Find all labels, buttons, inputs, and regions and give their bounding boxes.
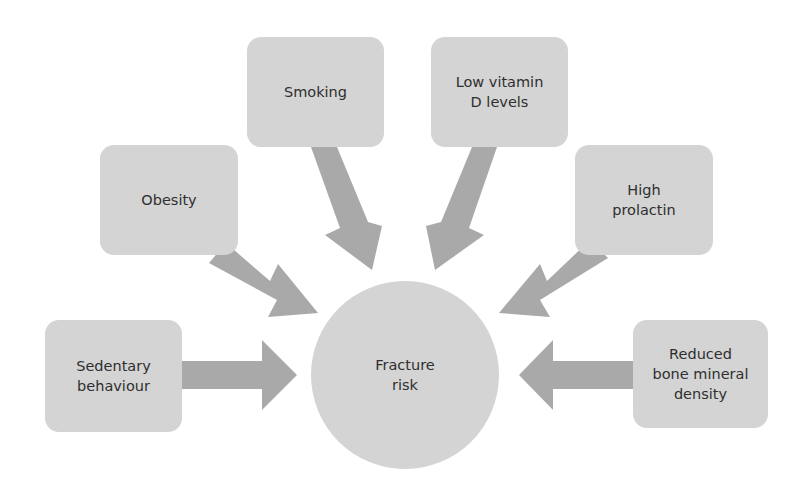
factor-label: Smoking xyxy=(284,82,347,102)
arrow-bmd xyxy=(519,340,633,410)
factor-label: Reduced bone mineral density xyxy=(653,344,749,405)
factor-label: Obesity xyxy=(141,190,196,210)
arrow-smoking xyxy=(311,147,382,270)
factor-label: High prolactin xyxy=(612,180,676,221)
factor-box-obesity: Obesity xyxy=(100,145,238,255)
center-label: Fracture risk xyxy=(375,355,435,396)
factor-box-smoking: Smoking xyxy=(247,37,384,147)
factor-label: Sedentary behaviour xyxy=(76,356,151,397)
factor-box-vitamin-d: Low vitamin D levels xyxy=(431,37,568,147)
arrow-vitamin-d xyxy=(426,147,497,270)
center-node-fracture-risk: Fracture risk xyxy=(311,281,499,469)
arrow-sedentary xyxy=(182,340,297,410)
factor-label: Low vitamin D levels xyxy=(456,72,544,113)
factor-box-bmd: Reduced bone mineral density xyxy=(633,320,768,428)
factor-box-sedentary: Sedentary behaviour xyxy=(45,320,182,432)
factor-box-prolactin: High prolactin xyxy=(575,145,713,255)
